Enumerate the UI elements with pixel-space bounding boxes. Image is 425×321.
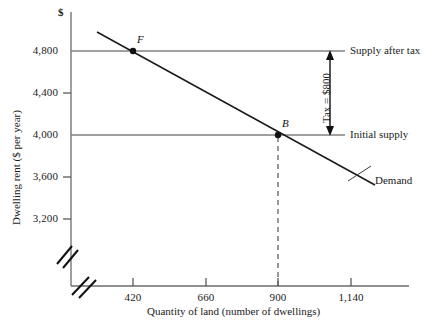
demand-label: Demand <box>375 174 412 186</box>
initial-supply-label: Initial supply <box>350 128 408 140</box>
x-tick-label-660: 660 <box>181 291 231 303</box>
supply-after-tax-label: Supply after tax <box>350 44 420 56</box>
y-tick-label-4800: 4,800 <box>10 44 58 56</box>
point-marker-f <box>130 48 136 54</box>
x-axis-title: Quantity of land (number of dwellings) <box>147 305 320 317</box>
x-axis-break-mark-2 <box>79 280 96 298</box>
demand-label-leader-line <box>348 166 371 181</box>
point-label-f: F <box>137 33 144 45</box>
point-marker-b <box>275 132 281 138</box>
y-axis-currency-symbol: $ <box>58 6 64 18</box>
y-axis-title: Dwelling rent ($ per year) <box>10 110 22 225</box>
x-tick-label-900: 900 <box>253 291 303 303</box>
point-label-b: B <box>282 117 289 129</box>
y-tick-label-4400: 4,400 <box>10 86 58 98</box>
tax-annotation-label: Tax = $800 <box>320 73 332 123</box>
x-tick-label-420: 420 <box>108 291 158 303</box>
x-tick-label-1140: 1,140 <box>326 291 376 303</box>
economics-supply-demand-chart: $ 4,800 4,400 4,000 3,600 3,200 420 660 … <box>0 0 425 321</box>
demand-curve <box>97 32 375 185</box>
